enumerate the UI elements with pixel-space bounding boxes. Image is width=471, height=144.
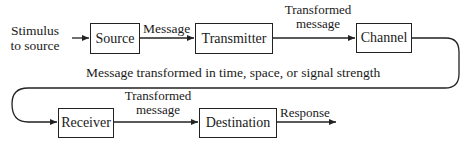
node-source-label: Source [96,32,135,46]
edge-label-response: Response [280,106,330,119]
node-channel: Channel [356,23,412,53]
edge-label-transformed-message-bottom: Transformed message [120,89,196,117]
node-receiver: Receiver [58,108,114,138]
node-source: Source [90,23,140,54]
stimulus-label-line2: to source [2,38,68,53]
node-destination: Destination [199,108,277,138]
stimulus-label: Stimulus to source [2,23,68,53]
edge-label-transformed-message-top: Transformed message [280,3,356,31]
node-destination-label: Destination [206,116,271,130]
node-channel-label: Channel [361,31,408,45]
edge-label-line2: message [120,103,196,117]
node-transmitter: Transmitter [195,23,273,54]
node-receiver-label: Receiver [61,116,111,130]
edge-label-line1: Transformed [120,89,196,103]
edge-label-line1: Transformed [280,3,356,17]
stimulus-label-line1: Stimulus [2,23,68,38]
edge-label-line2: message [280,17,356,31]
communication-diagram: Stimulus to source Source Transmitter Ch… [0,0,471,144]
node-transmitter-label: Transmitter [202,32,267,46]
edge-label-loop: Message transformed in time, space, or s… [86,66,380,79]
edge-label-message: Message [143,22,190,35]
